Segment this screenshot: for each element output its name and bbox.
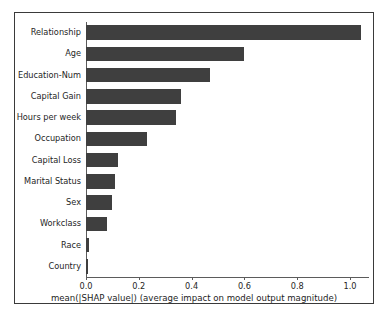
bar-row: Education-Num <box>86 65 368 86</box>
category-label: Country <box>48 256 81 277</box>
category-label: Age <box>65 43 81 64</box>
x-tick <box>192 277 193 280</box>
x-tick-label: 0.4 <box>177 281 207 291</box>
bar-row: Marital Status <box>86 171 368 192</box>
bar <box>86 217 107 232</box>
bar <box>86 25 361 40</box>
x-tick <box>86 277 87 280</box>
category-label: Occupation <box>34 128 81 149</box>
plot-area: RelationshipAgeEducation-NumCapital Gain… <box>86 22 368 277</box>
x-tick-label: 0.8 <box>282 281 312 291</box>
x-tick-label: 0.0 <box>71 281 101 291</box>
bar <box>86 174 115 189</box>
x-tick <box>297 277 298 280</box>
bar-row: Occupation <box>86 128 368 149</box>
bar-row: Capital Gain <box>86 86 368 107</box>
bar <box>86 238 89 253</box>
bar-row: Relationship <box>86 22 368 43</box>
category-label: Capital Loss <box>32 150 81 171</box>
bar-row: Sex <box>86 192 368 213</box>
bar <box>86 132 147 147</box>
bar-row: Race <box>86 235 368 256</box>
bar <box>86 110 176 125</box>
x-tick-label: 1.0 <box>335 281 365 291</box>
x-axis-label: mean(|SHAP value|) (average impact on mo… <box>14 293 374 303</box>
bar <box>86 89 181 104</box>
bar-row: Workclass <box>86 213 368 234</box>
category-label: Marital Status <box>24 171 81 192</box>
bar <box>86 153 118 168</box>
bar-row: Capital Loss <box>86 150 368 171</box>
category-label: Workclass <box>40 213 81 234</box>
x-tick <box>244 277 245 280</box>
x-tick-label: 0.2 <box>124 281 154 291</box>
bar-row: Country <box>86 256 368 277</box>
category-label: Race <box>61 235 81 256</box>
bar-row: Hours per week <box>86 107 368 128</box>
category-label: Relationship <box>31 22 81 43</box>
category-label: Capital Gain <box>31 86 81 107</box>
x-tick <box>139 277 140 280</box>
x-tick-label: 0.6 <box>229 281 259 291</box>
bar <box>86 259 88 274</box>
x-tick <box>350 277 351 280</box>
x-axis-spine <box>86 277 369 278</box>
category-label: Hours per week <box>17 107 81 128</box>
bar-row: Age <box>86 43 368 64</box>
category-label: Sex <box>66 192 81 213</box>
category-label: Education-Num <box>18 65 81 86</box>
bar <box>86 195 112 210</box>
bar <box>86 47 244 62</box>
bar <box>86 68 210 83</box>
shap-bar-chart-figure: RelationshipAgeEducation-NumCapital Gain… <box>0 0 388 318</box>
